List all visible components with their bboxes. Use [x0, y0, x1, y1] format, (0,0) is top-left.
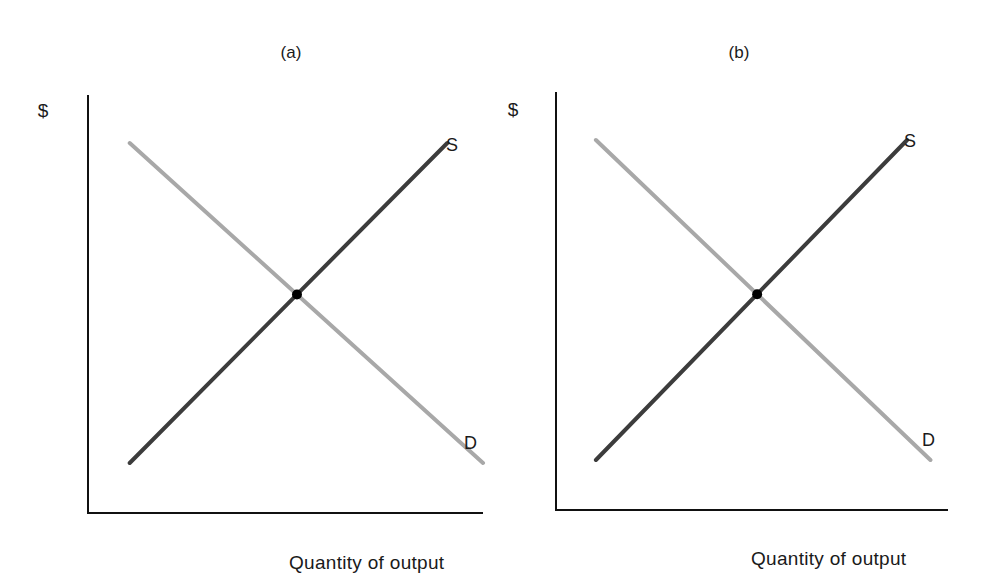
panel-b-demand-label: D [922, 430, 935, 450]
panel-a-supply-curve [130, 143, 448, 463]
panel-a-x-axis-label: Quantity of output [289, 552, 445, 573]
panel-b-demand-curve [596, 140, 931, 460]
panel-b-x-axis-label: Quantity of output [751, 548, 907, 569]
panel-a-demand-label: D [464, 433, 477, 453]
panel-a-demand-curve [130, 143, 483, 463]
panel-b-supply-curve [596, 140, 907, 460]
panel-a-title: (a) [281, 43, 302, 62]
panel-b-equilibrium-point [752, 289, 762, 299]
panel-b: (b) $ S D Quantity of output [508, 43, 948, 569]
panel-a-y-axis-label: $ [38, 100, 49, 121]
panel-a: (a) $ S D Quantity of output [38, 43, 483, 573]
panel-a-equilibrium-point [292, 289, 302, 299]
supply-demand-figure: (a) $ S D Quantity of output (b) $ S D Q… [0, 0, 985, 583]
panel-b-y-axis-label: $ [508, 99, 519, 120]
panel-a-supply-label: S [446, 135, 458, 155]
panel-b-title: (b) [729, 43, 750, 62]
panel-b-supply-label: S [904, 131, 916, 151]
